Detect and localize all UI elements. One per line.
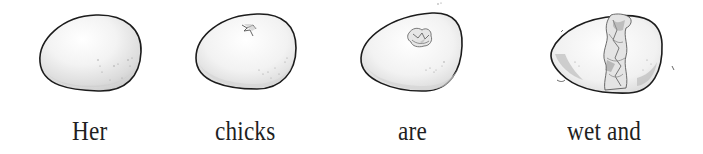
- panel-hole-pecked: are: [350, 0, 525, 154]
- caption-are: are: [398, 116, 427, 146]
- panel-first-crack: chicks: [175, 0, 350, 154]
- egg-hole-pecked-icon: [350, 0, 525, 110]
- panel-intact-egg: Her: [0, 0, 175, 154]
- caption-wet-and: wet and: [567, 116, 641, 146]
- egg-intact-icon: [0, 0, 175, 110]
- caption-chicks: chicks: [215, 116, 275, 146]
- panel-cracked-open: wet and: [525, 0, 703, 154]
- egg-cracked-open-icon: [525, 0, 703, 110]
- caption-her: Her: [72, 116, 107, 146]
- egg-first-crack-icon: [175, 0, 350, 110]
